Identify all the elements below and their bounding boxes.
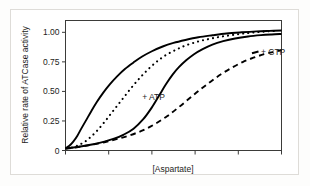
y-axis-tick-label: 0 (55, 146, 60, 156)
figure-root: 00.250.500.751.00 + ATP+ CTP [Aspartate]… (0, 0, 310, 186)
annotation-ctp: + CTP (261, 47, 286, 57)
x-axis-title: [Aspartate] (152, 164, 193, 174)
y-axis-tick-label: 1.00 (43, 27, 60, 37)
annotation-atp: + ATP (142, 92, 165, 102)
y-axis-tick-label: 0.25 (43, 116, 60, 126)
y-axis-ticks (62, 32, 66, 150)
x-axis-ticks (66, 151, 282, 155)
y-axis-tick-label: 0.75 (43, 57, 60, 67)
y-axis-tick-labels: 00.250.500.751.00 (43, 27, 60, 155)
y-axis-title: Relative rate of ATCase activity (20, 26, 30, 144)
atcase-activity-chart: 00.250.500.751.00 + ATP+ CTP [Aspartate]… (0, 0, 310, 186)
y-axis-tick-label: 0.50 (43, 86, 60, 96)
